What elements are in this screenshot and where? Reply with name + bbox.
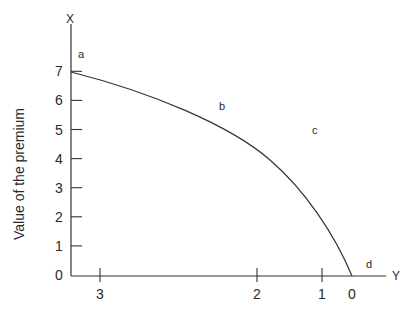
y-tick-label: 4 — [55, 151, 63, 167]
x-tick-label: 1 — [318, 286, 326, 302]
horizontal-axis-letter: Y — [392, 269, 400, 283]
y-tick-label: 1 — [55, 238, 63, 254]
annotation-d: d — [366, 258, 372, 270]
x-tick-label: 2 — [253, 286, 261, 302]
y-ticks: 01234567 — [55, 63, 82, 283]
premium-curve — [71, 72, 352, 276]
annotation-a: a — [78, 48, 85, 60]
annotation-b: b — [219, 100, 225, 112]
x-tick-label: 3 — [96, 286, 104, 302]
vertical-axis-letter: X — [66, 12, 74, 26]
region-annotations: abcd — [78, 48, 372, 270]
y-tick-label: 3 — [55, 180, 63, 196]
y-tick-label: 6 — [55, 92, 63, 108]
y-axis-label: Value of the premium — [11, 108, 27, 240]
y-tick-label: 2 — [55, 209, 63, 225]
y-tick-label: 7 — [55, 63, 63, 79]
y-tick-label: 5 — [55, 122, 63, 138]
annotation-c: c — [312, 124, 318, 136]
chart: 01234567 3210 X Y Value of the premium a… — [0, 0, 413, 317]
x-ticks: 3210 — [96, 268, 356, 302]
x-tick-label: 0 — [348, 286, 356, 302]
y-tick-label: 0 — [55, 267, 63, 283]
